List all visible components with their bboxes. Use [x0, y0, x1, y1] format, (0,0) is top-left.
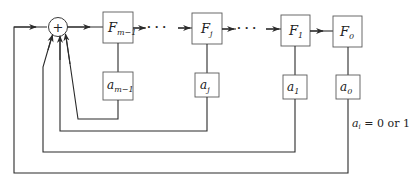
stage-f-j: Fj aj	[60, 13, 222, 131]
coef-label: a	[287, 80, 294, 94]
svg-text:ai = 0 or 1: ai = 0 or 1	[352, 117, 410, 131]
coef-label: a	[107, 78, 114, 92]
ellipsis: · · ·	[237, 22, 256, 35]
coef-subscript: 0	[347, 87, 352, 96]
adder-plus-symbol: +	[53, 20, 64, 35]
ellipsis: · · ·	[147, 21, 166, 34]
stage-f-m-minus-1: Fm−1 am−1	[66, 12, 137, 119]
wire-fj-to-f1: · · ·	[222, 22, 281, 35]
stage-subscript: m−1	[117, 28, 136, 37]
feedback-line-a0	[14, 27, 348, 173]
adder: +	[49, 18, 68, 37]
stage-subscript: 0	[349, 32, 354, 41]
coefficient-note: ai = 0 or 1	[352, 117, 410, 131]
feedback-line-aj	[60, 37, 207, 131]
wire-fm1-to-fj: · · ·	[133, 21, 192, 34]
note-text: = 0 or 1	[361, 117, 410, 130]
stage-subscript: 1	[298, 31, 303, 40]
coef-label: a	[200, 78, 207, 92]
coef-label: a	[340, 80, 347, 94]
lfsr-diagram: + Fm−1 am−1 · · · Fj a	[0, 0, 410, 186]
stage-f-0: F0 a0	[333, 16, 362, 99]
feedback-line-a1	[43, 36, 295, 152]
coef-subscript: 1	[294, 87, 299, 96]
coef-subscript: m−1	[114, 85, 133, 94]
